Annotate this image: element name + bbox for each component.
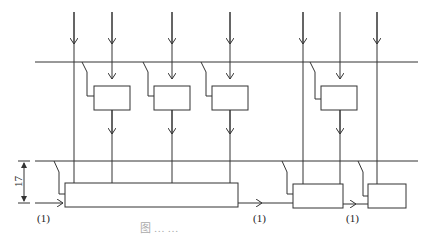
upper-box-1: [82, 62, 130, 110]
figure-caption: 图 … …: [140, 222, 179, 234]
input-label-1: (1): [37, 212, 50, 225]
input-label-2: (1): [253, 212, 266, 225]
dimension-label: 17: [12, 176, 24, 188]
upper-box-2: [143, 62, 190, 110]
lower-box-mid: [282, 161, 343, 208]
lower-box-main: [54, 161, 238, 207]
upper-box-3: [201, 62, 248, 110]
circuit-diagram: 17 (1) (1) (1) 图 … …: [0, 0, 427, 235]
upper-box-4: [310, 62, 357, 110]
lower-box-right: [358, 161, 406, 208]
input-label-3: (1): [346, 212, 359, 225]
